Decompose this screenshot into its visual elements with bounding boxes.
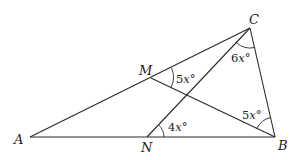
angle-label-b: 5x°: [242, 108, 262, 122]
angle-label-n: 4x°: [168, 120, 188, 134]
angle-arc-n: [159, 125, 165, 137]
triangle-diagram: A B C M N 6x° 5x° 5x° 4x°: [0, 0, 297, 160]
angle-label-c: 6x°: [231, 51, 251, 65]
point-label-c: C: [249, 12, 259, 27]
point-label-n: N: [140, 140, 153, 155]
angle-arc-c: [236, 43, 254, 48]
segment-nc: [147, 28, 250, 137]
point-label-m: M: [138, 63, 153, 78]
point-label-b: B: [277, 138, 288, 153]
segment-ac: [30, 28, 250, 137]
angle-label-m: 5x°: [176, 72, 196, 86]
point-label-a: A: [13, 132, 23, 147]
angle-arc-m: [171, 68, 174, 88]
